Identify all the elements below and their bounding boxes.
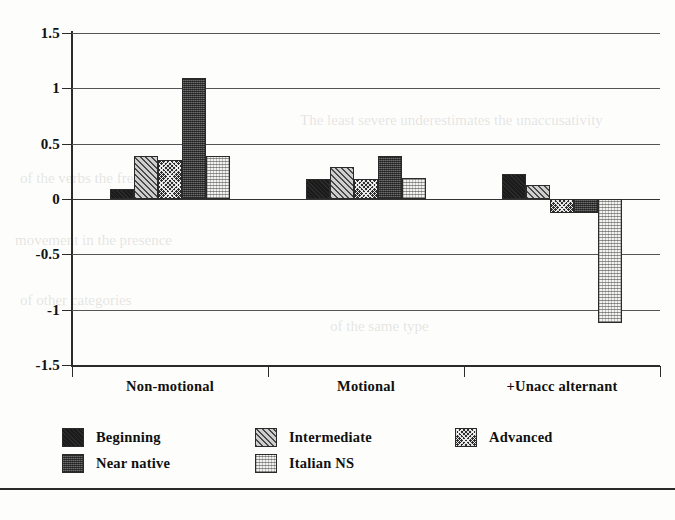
swatch-beginning-icon (62, 428, 84, 447)
legend-label-intermediate: Intermediate (289, 429, 372, 446)
swatch-italian-ns-icon (255, 454, 277, 473)
y-tick--1 (62, 310, 72, 311)
legend-label-italian-ns: Italian NS (289, 455, 354, 472)
bar-motional-beginning (306, 179, 330, 199)
y-tick--1.5 (62, 365, 72, 366)
page-bottom-rule (0, 488, 675, 490)
y-tick--0.5 (62, 254, 72, 255)
y-axis-label-0: 0 (6, 191, 60, 208)
page-ghost-text: The least severe underestimates the unac… (300, 112, 603, 129)
bar--unacc-alternant-italian-ns (598, 199, 622, 323)
gridline-1 (72, 88, 660, 89)
bar-motional-advanced (354, 179, 378, 199)
legend-item-advanced[interactable]: Advanced (455, 424, 553, 450)
legend-row-1: Beginning Intermediate Advanced (62, 424, 622, 450)
bar-non-motional-intermediate (134, 156, 158, 199)
y-axis-label-1: 1 (6, 80, 60, 97)
y-axis-label-1.5: 1.5 (6, 25, 60, 42)
y-axis-label--1: -1 (6, 302, 60, 319)
legend-item-beginning[interactable]: Beginning (62, 424, 161, 450)
x-tick-1 (268, 366, 269, 377)
legend-item-near-native[interactable]: Near native (62, 450, 170, 476)
caption-strip (0, 494, 675, 520)
legend-label-advanced: Advanced (489, 429, 553, 446)
category-label-motional: Motional (337, 378, 395, 395)
chart-legend: Beginning Intermediate Advanced Near nat… (62, 424, 622, 476)
y-axis-labels: 1.510.50-0.5-1-1.5 (0, 0, 60, 400)
bar--unacc-alternant-advanced (550, 199, 574, 213)
bar-motional-intermediate (330, 167, 354, 199)
legend-item-intermediate[interactable]: Intermediate (255, 424, 372, 450)
y-axis-label--0.5: -0.5 (6, 246, 60, 263)
swatch-intermediate-icon (255, 428, 277, 447)
category-label-non-motional: Non-motional (126, 378, 214, 395)
legend-label-near-native: Near native (96, 455, 170, 472)
bar-non-motional-advanced (158, 160, 182, 199)
bar-non-motional-near-native (182, 78, 206, 199)
x-axis-line (72, 365, 660, 367)
gridline-1.5 (72, 33, 660, 34)
legend-row-2: Near native Italian NS (62, 450, 622, 476)
legend-item-italian-ns[interactable]: Italian NS (255, 450, 354, 476)
bar-motional-italian-ns (402, 178, 426, 199)
x-tick-edge-0 (72, 366, 73, 377)
y-tick-1 (62, 88, 72, 89)
y-axis-label-0.5: 0.5 (6, 136, 60, 153)
swatch-advanced-icon (455, 428, 477, 447)
y-tick-0 (62, 199, 72, 200)
gridline--0.5 (72, 254, 660, 255)
bar--unacc-alternant-near-native (574, 199, 598, 213)
bar-motional-near-native (378, 156, 402, 199)
legend-label-beginning: Beginning (96, 429, 161, 446)
gridline-0.5 (72, 144, 660, 145)
bar--unacc-alternant-beginning (502, 174, 526, 199)
x-tick-2 (464, 366, 465, 377)
y-axis-label--1.5: -1.5 (6, 357, 60, 374)
category-label--unacc-alternant: +Unacc alternant (507, 378, 618, 395)
gridline--1 (72, 310, 660, 311)
y-tick-1.5 (62, 33, 72, 34)
x-tick-edge-3 (660, 366, 661, 377)
bar-chart-figure: The least severe underestimates the unac… (0, 0, 675, 490)
bar--unacc-alternant-intermediate (526, 185, 550, 199)
bar-non-motional-beginning (110, 189, 134, 199)
y-tick-0.5 (62, 144, 72, 145)
swatch-near-native-icon (62, 454, 84, 473)
page-ghost-text: of the same type (330, 318, 429, 335)
bar-non-motional-italian-ns (206, 156, 230, 199)
